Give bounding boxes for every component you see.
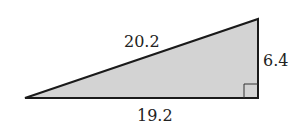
triangle-shape: [25, 19, 258, 98]
horizontal-leg-label: 19.2: [137, 106, 173, 125]
triangle-diagram: 20.2 6.4 19.2: [0, 0, 301, 129]
hypotenuse-label: 20.2: [124, 32, 160, 51]
vertical-leg-label: 6.4: [263, 51, 288, 70]
